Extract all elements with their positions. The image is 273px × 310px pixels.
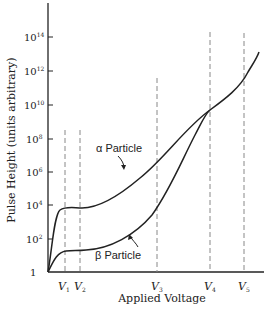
y-tick-labels: 1014 1012 1010 108 106 104 102 1: [24, 31, 45, 278]
beta-particle-curve: [48, 110, 210, 272]
voltage-reference-lines: [65, 32, 244, 272]
beta-particle-label: β Particle: [95, 249, 141, 261]
chart: 1014 1012 1010 108 106 104 102 1 Pulse H…: [0, 0, 273, 310]
svg-text:102: 102: [26, 233, 43, 245]
svg-text:1014: 1014: [24, 31, 45, 43]
svg-text:1010: 1010: [24, 99, 45, 111]
alpha-arrowhead-icon: [121, 165, 126, 170]
svg-text:V2: V2: [74, 280, 86, 293]
svg-text:108: 108: [26, 133, 43, 145]
svg-text:106: 106: [26, 166, 43, 178]
svg-text:104: 104: [26, 199, 43, 211]
svg-text:V1: V1: [58, 280, 70, 293]
x-axis-label: Applied Voltage: [117, 292, 206, 305]
y-ticks: [48, 37, 53, 239]
alpha-particle-label: α Particle: [96, 142, 142, 154]
svg-text:1012: 1012: [24, 65, 45, 77]
svg-text:1: 1: [30, 267, 36, 278]
svg-text:V5: V5: [238, 280, 250, 293]
y-axis-label: Pulse Height (units arbitrary): [5, 57, 18, 222]
